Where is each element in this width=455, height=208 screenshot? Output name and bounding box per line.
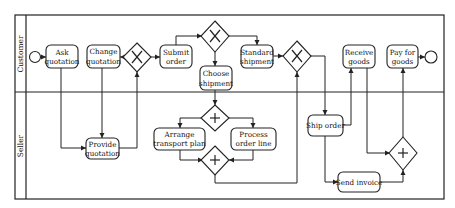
pool-frame [15, 15, 444, 199]
task-label-line2: shipment [240, 57, 274, 66]
lane-label-customer: Customer [16, 35, 25, 72]
task-label: Send invoice [336, 178, 383, 187]
end-event[interactable] [425, 51, 437, 63]
task-label-line1: Arrange [164, 130, 195, 139]
task-label-line1: Pay for [390, 48, 416, 57]
task-standard-shipment[interactable]: Standard shipment [240, 45, 274, 68]
task-label-line2: order [166, 57, 187, 66]
task-label-line1: Receive [345, 48, 374, 57]
task-label-line1: Provide [89, 140, 117, 149]
task-send-invoice[interactable]: Send invoice [336, 172, 383, 192]
gateway-parallel-split[interactable] [201, 105, 229, 131]
task-change-quotation[interactable]: Change quotation [86, 45, 121, 68]
gateway-parallel-join[interactable] [201, 146, 229, 175]
task-receive-goods[interactable]: Receive goods [343, 45, 375, 68]
task-pay-for-goods[interactable]: Pay for goods [387, 45, 418, 68]
gateway-parallel-final[interactable] [389, 137, 417, 170]
task-label-line2: quotation [86, 57, 121, 66]
task-label-line1: Change [90, 47, 118, 56]
task-label-line2: quotation [85, 149, 120, 158]
task-label-line1: Choose [203, 69, 230, 78]
gateway-shipment-merge-exclusive[interactable] [283, 41, 311, 72]
lane-label-seller: Seller [16, 134, 25, 157]
task-label-line1: Standard [240, 48, 274, 57]
task-label-line1: Ask [54, 48, 69, 57]
task-submit-order[interactable]: Submit order [160, 45, 192, 68]
task-ask-quotation[interactable]: Ask quotation [45, 45, 80, 68]
task-label-line2: transport plan [153, 139, 206, 148]
task-process-order-line[interactable]: Process order line [231, 128, 276, 150]
task-label-line2: order line [236, 139, 272, 148]
process-diagram: Customer Seller [0, 0, 455, 208]
task-label-line1: Process [239, 130, 268, 139]
task-label-line1: Submit [163, 48, 189, 57]
task-label-line2: shipment [199, 79, 233, 88]
task-label: Ship order [306, 121, 345, 130]
gateway-quote-exclusive[interactable] [123, 43, 151, 72]
task-ship-order[interactable]: Ship order [306, 115, 345, 136]
task-choose-shipment[interactable]: Choose shipment [199, 66, 233, 90]
task-label-line2: quotation [45, 57, 80, 66]
task-provide-quotation[interactable]: Provide quotation [85, 138, 120, 159]
gateway-shipment-choice-exclusive[interactable] [201, 21, 229, 52]
task-label-line2: goods [348, 57, 370, 66]
start-event[interactable] [30, 52, 41, 63]
task-arrange-transport-plan[interactable]: Arrange transport plan [153, 128, 206, 150]
task-label-line2: goods [392, 57, 414, 66]
